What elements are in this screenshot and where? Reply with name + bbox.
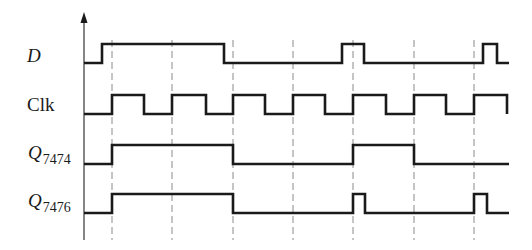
signal-label-q7474: Q7474	[28, 143, 71, 162]
signal-label-d: D	[27, 46, 41, 65]
signal-name: Q	[28, 142, 42, 163]
waveform-d	[84, 44, 509, 63]
arrow-up-icon	[81, 12, 88, 23]
signal-subscript: 7476	[43, 200, 71, 215]
signal-label-clk: Clk	[27, 95, 54, 114]
waveform-q7476	[84, 194, 509, 213]
clock-edge-gridlines	[112, 40, 474, 240]
signal-label-q7476: Q7476	[28, 191, 71, 210]
waveform-clk	[84, 95, 507, 114]
timing-diagram	[0, 0, 532, 250]
time-axis	[81, 12, 88, 240]
signal-name: Clk	[27, 94, 54, 115]
signal-name: Q	[28, 190, 42, 211]
waveforms	[84, 44, 509, 213]
signal-subscript: 7474	[43, 152, 71, 167]
waveform-q7474	[84, 145, 509, 164]
signal-name: D	[27, 45, 41, 66]
